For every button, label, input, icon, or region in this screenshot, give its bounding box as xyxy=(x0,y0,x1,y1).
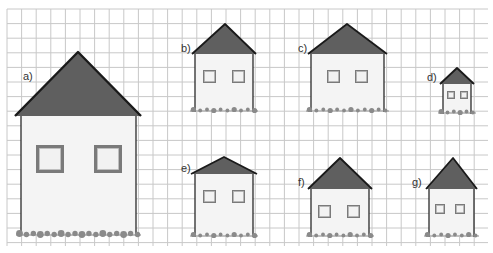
window-glass xyxy=(462,93,467,98)
house-roof xyxy=(15,52,141,116)
house-d: d) xyxy=(427,68,476,115)
house-e: e) xyxy=(181,157,258,238)
window-glass xyxy=(329,72,339,82)
window-glass xyxy=(39,148,60,169)
houses-layer: a)b)c)d)e)f)g) xyxy=(0,0,493,253)
house-roof xyxy=(191,157,257,174)
window-glass xyxy=(234,72,244,82)
house-label: d) xyxy=(427,71,437,83)
house-wall xyxy=(311,54,384,112)
house-label: g) xyxy=(412,176,422,188)
window-glass xyxy=(357,72,367,82)
house-a: a) xyxy=(15,52,141,238)
house-wall xyxy=(21,116,136,236)
window-glass xyxy=(205,192,215,202)
house-label: f) xyxy=(298,176,305,188)
window-glass xyxy=(457,206,464,213)
window-glass xyxy=(234,192,244,202)
window-glass xyxy=(437,206,444,213)
house-roof xyxy=(308,24,387,54)
window-glass xyxy=(205,72,215,82)
window-glass xyxy=(97,148,118,169)
house-wall xyxy=(195,174,253,237)
house-label: c) xyxy=(298,42,307,54)
grass-tuft xyxy=(16,230,23,237)
house-roof xyxy=(440,68,474,84)
grass-tuft xyxy=(58,230,65,237)
house-scaling-diagram: a)b)c)d)e)f)g) xyxy=(0,0,493,253)
house-roof xyxy=(308,158,372,189)
window-glass xyxy=(320,207,330,217)
house-label: b) xyxy=(181,42,191,54)
house-g: g) xyxy=(412,158,479,238)
house-label: e) xyxy=(181,162,191,174)
grass-tuft xyxy=(99,230,106,237)
house-label: a) xyxy=(23,70,33,82)
house-roof xyxy=(426,158,477,189)
window-glass xyxy=(349,207,359,217)
window-glass xyxy=(449,93,454,98)
house-f: f) xyxy=(298,158,374,238)
house-c: c) xyxy=(298,24,389,113)
house-b: b) xyxy=(181,24,258,113)
house-roof xyxy=(192,24,256,54)
